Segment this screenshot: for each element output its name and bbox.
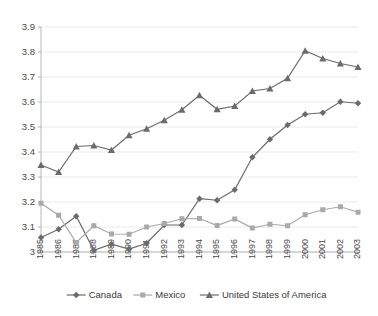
series-line bbox=[41, 102, 358, 251]
y-tick-label: 3.9 bbox=[22, 21, 35, 32]
data-point bbox=[285, 223, 290, 228]
data-point bbox=[55, 169, 62, 175]
x-tick-label: 1995 bbox=[211, 239, 221, 259]
y-tick-label: 3.7 bbox=[22, 71, 35, 82]
data-point bbox=[215, 223, 220, 228]
data-point bbox=[196, 92, 203, 98]
x-tick-label: 2003 bbox=[352, 239, 362, 259]
y-tick-label: 3.1 bbox=[22, 221, 35, 232]
data-point bbox=[39, 201, 44, 206]
data-point bbox=[74, 240, 79, 245]
series-layer bbox=[37, 47, 361, 253]
data-point bbox=[356, 210, 361, 215]
y-tick-label: 3.5 bbox=[22, 121, 35, 132]
y-tick-label: 3.8 bbox=[22, 46, 35, 57]
x-tick-label: 2000 bbox=[300, 239, 310, 259]
x-tick-label: 1999 bbox=[282, 239, 292, 259]
x-tick-label: 2001 bbox=[317, 239, 327, 259]
x-tick-label: 1996 bbox=[229, 239, 239, 259]
data-point bbox=[284, 75, 291, 81]
x-tick-label: 1985 bbox=[35, 239, 45, 259]
data-point bbox=[197, 216, 202, 221]
data-point bbox=[91, 223, 96, 228]
x-tick-label: 1992 bbox=[159, 239, 169, 259]
data-point bbox=[232, 187, 238, 193]
data-point bbox=[302, 111, 308, 117]
x-tick-label: 1994 bbox=[194, 239, 204, 259]
data-point bbox=[302, 47, 309, 53]
x-tick-label: 1993 bbox=[176, 239, 186, 259]
data-point bbox=[127, 232, 132, 237]
data-point bbox=[337, 99, 343, 105]
data-point bbox=[109, 232, 114, 237]
data-point bbox=[355, 100, 361, 106]
line-chart: 33.13.23.33.43.53.63.73.83.9 19851986198… bbox=[0, 0, 378, 316]
data-point bbox=[250, 226, 255, 231]
y-tick-label: 3.2 bbox=[22, 196, 35, 207]
legend-square-marker-icon bbox=[140, 293, 145, 298]
y-tick-label: 3.3 bbox=[22, 171, 35, 182]
data-point bbox=[338, 204, 343, 209]
legend-label: Mexico bbox=[155, 289, 185, 300]
data-point bbox=[144, 225, 149, 230]
data-point bbox=[196, 196, 202, 202]
data-point bbox=[161, 117, 168, 123]
data-point bbox=[267, 222, 272, 227]
legend-label: Canada bbox=[89, 289, 123, 300]
chart-canvas: 33.13.23.33.43.53.63.73.83.9 19851986198… bbox=[0, 0, 378, 316]
series-united-states-of-america bbox=[37, 47, 361, 175]
data-point bbox=[179, 216, 184, 221]
x-tick-label: 1986 bbox=[53, 239, 63, 259]
data-point bbox=[125, 132, 132, 138]
data-point bbox=[320, 110, 326, 116]
series-line bbox=[41, 51, 358, 172]
legend-item-canada[interactable]: Canada bbox=[67, 289, 123, 300]
data-point bbox=[266, 85, 273, 91]
legend-item-mexico[interactable]: Mexico bbox=[133, 289, 185, 300]
y-tick-label: 3.4 bbox=[22, 146, 35, 157]
data-point bbox=[56, 213, 61, 218]
series-mexico bbox=[39, 201, 361, 245]
chart-legend: CanadaMexicoUnited States of America bbox=[67, 289, 327, 300]
x-tick-label: 1998 bbox=[264, 239, 274, 259]
legend-label: United States of America bbox=[222, 289, 327, 300]
y-tick-label: 3 bbox=[30, 246, 35, 257]
data-point bbox=[319, 55, 326, 61]
y-axis-tick-labels: 33.13.23.33.43.53.63.73.83.9 bbox=[22, 21, 35, 257]
series-line bbox=[41, 203, 358, 242]
data-point bbox=[320, 207, 325, 212]
x-tick-label: 1997 bbox=[247, 239, 257, 259]
data-point bbox=[37, 162, 44, 168]
x-tick-label: 2002 bbox=[335, 239, 345, 259]
legend-item-united-states-of-america[interactable]: United States of America bbox=[200, 289, 327, 300]
series-canada bbox=[38, 99, 361, 254]
data-point bbox=[162, 221, 167, 226]
y-tick-label: 3.6 bbox=[22, 96, 35, 107]
data-point bbox=[303, 212, 308, 217]
legend-diamond-marker-icon bbox=[73, 292, 79, 298]
data-point bbox=[143, 125, 150, 131]
x-axis-tick-labels: 1985198619871988198919901991199219931994… bbox=[35, 239, 362, 259]
data-point bbox=[232, 217, 237, 222]
